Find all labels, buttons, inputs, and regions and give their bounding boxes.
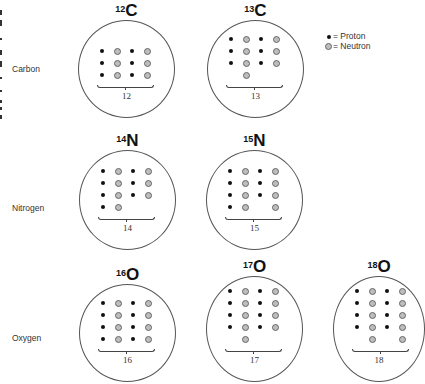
neutron-dot [114, 48, 121, 55]
proton-dot [228, 205, 232, 209]
mass-total-label: 14 [79, 223, 176, 233]
proton-dot [131, 193, 135, 197]
proton-dot [100, 61, 104, 65]
proton-dot [130, 73, 134, 77]
mass-number: 17 [243, 260, 253, 270]
proton-dot [229, 37, 233, 41]
neutron-dot [243, 36, 250, 43]
proton-dot [258, 301, 262, 305]
isotope-symbol: 17O [206, 258, 303, 275]
proton-dot [258, 169, 262, 173]
neutron-dot [272, 180, 279, 187]
neutron-dot [145, 300, 152, 307]
mass-number: 16 [116, 268, 126, 278]
proton-dot [355, 313, 359, 317]
neutron-dot [115, 180, 122, 187]
neutron-dot [272, 300, 279, 307]
neutron-dot [115, 300, 122, 307]
proton-dot [131, 169, 135, 173]
isotope-symbol: 13C [207, 2, 304, 19]
mass-total-label: 18 [333, 355, 425, 365]
proton-dot [259, 49, 263, 53]
proton-dot [228, 181, 232, 185]
bracket-tick [126, 219, 127, 222]
proton-dot [131, 313, 135, 317]
element-symbol: O [377, 257, 390, 276]
neutron-dot [399, 324, 406, 331]
neutron-dot [242, 180, 249, 187]
mass-total-label: 13 [207, 91, 304, 101]
neutron-dot [115, 336, 122, 343]
nucleus-carbon-13: 13C13 [207, 2, 304, 118]
text-fragment [0, 107, 2, 110]
nucleus-oxygen-18: 18O18 [333, 258, 425, 382]
proton-dot [228, 193, 232, 197]
text-fragment [0, 61, 2, 67]
proton-dot [258, 325, 262, 329]
neutron-dot [242, 168, 249, 175]
nucleus-circle [333, 276, 425, 382]
neutron-dot [369, 312, 376, 319]
proton-dot [228, 301, 232, 305]
neutron-dot [242, 312, 249, 319]
row-label-nitrogen: Nitrogen [12, 203, 44, 213]
neutron-dot [145, 168, 152, 175]
neutron-dot [115, 204, 122, 211]
neutron-dot [242, 336, 249, 343]
neutron-dot [145, 312, 152, 319]
proton-dot [355, 289, 359, 293]
proton-dot [229, 61, 233, 65]
element-symbol: C [254, 1, 266, 20]
neutron-dot [369, 288, 376, 295]
proton-dot [130, 49, 134, 53]
neutron-dot [114, 72, 121, 79]
proton-dot [385, 289, 389, 293]
nucleus-oxygen-16: 16O16 [79, 266, 176, 382]
isotope-symbol: 18O [333, 258, 425, 275]
neutron-dot [369, 336, 376, 343]
neutron-dot [272, 288, 279, 295]
proton-dot [259, 61, 263, 65]
proton-dot [258, 193, 262, 197]
proton-dot [259, 37, 263, 41]
mass-number: 15 [243, 134, 253, 144]
proton-dot [131, 301, 135, 305]
neutron-dot [145, 336, 152, 343]
isotope-symbol: 12C [78, 2, 175, 19]
neutron-dot [115, 192, 122, 199]
neutron-dot [243, 48, 250, 55]
proton-dot [100, 49, 104, 53]
nucleus-circle [207, 20, 304, 118]
bracket-tick [380, 351, 381, 354]
proton-dot [228, 169, 232, 173]
neutron-dot [273, 60, 280, 67]
nucleus-circle [79, 150, 176, 250]
text-fragment [0, 115, 2, 119]
proton-dot [101, 337, 105, 341]
text-fragment [0, 38, 2, 40]
neutron-dot [399, 288, 406, 295]
nucleus-oxygen-17: 17O17 [206, 258, 303, 382]
text-fragment [0, 77, 2, 79]
bracket-tick [126, 351, 127, 354]
proton-dot [101, 325, 105, 329]
bracket-tick [125, 87, 126, 90]
proton-dot [130, 61, 134, 65]
neutron-dot [242, 288, 249, 295]
mass-number: 12 [115, 4, 125, 14]
text-fragment [0, 90, 2, 92]
neutron-dot [242, 300, 249, 307]
bracket-tick [253, 219, 254, 222]
proton-dot [228, 313, 232, 317]
element-symbol: C [125, 1, 137, 20]
bracket-tick [253, 351, 254, 354]
mass-total-label: 12 [78, 91, 175, 101]
legend-proton-label: = Proton [333, 31, 365, 41]
proton-dot [101, 313, 105, 317]
neutron-dot [242, 192, 249, 199]
neutron-icon [325, 43, 332, 50]
proton-dot [385, 325, 389, 329]
mass-total-label: 15 [206, 223, 303, 233]
mass-total-label: 16 [79, 355, 176, 365]
mass-number: 18 [367, 260, 377, 270]
